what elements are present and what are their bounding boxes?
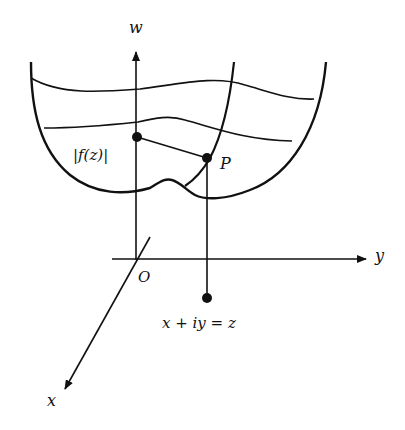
modulus-surface-diagram — [0, 0, 405, 430]
w-axis-point — [132, 132, 142, 142]
point-P-label: P — [220, 156, 231, 172]
point-P — [202, 153, 212, 163]
surface-contour-middle — [44, 117, 292, 141]
x-axis-label: x — [47, 393, 56, 409]
y-axis-label: y — [375, 248, 384, 264]
modulus-segment — [137, 137, 207, 158]
surface-contour-upper — [31, 78, 314, 99]
x-axis — [65, 237, 150, 389]
modulus-label: |f(z)| — [73, 148, 108, 163]
origin-label: O — [138, 270, 150, 285]
w-axis-label: w — [129, 20, 143, 36]
z-point-label: x + iy = z — [162, 316, 236, 331]
point-z — [202, 293, 212, 303]
surface-outline — [31, 62, 326, 198]
